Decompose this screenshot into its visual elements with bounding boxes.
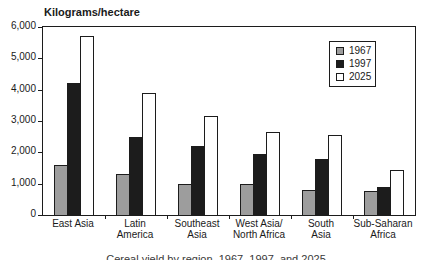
bar-1997-southeast-asia	[191, 146, 205, 215]
bar-2025-east-asia	[80, 36, 94, 215]
y-axis-tick	[38, 121, 42, 122]
legend-item-1967: 1967	[336, 46, 375, 56]
y-axis-label-2-000: 2,000	[0, 146, 36, 156]
bar-2025-southeast-asia	[204, 116, 218, 215]
y-axis-tick	[38, 184, 42, 185]
y-axis-label-1-000: 1,000	[0, 178, 36, 188]
bar-1997-east-asia	[67, 83, 81, 215]
bar-1967-southeast-asia	[178, 184, 192, 215]
y-axis-tick	[38, 90, 42, 91]
bar-1967-latin-america	[116, 174, 130, 215]
bar-1967-east-asia	[54, 165, 68, 215]
bar-2025-south-asia	[328, 135, 342, 215]
legend-item-1997: 1997	[336, 59, 375, 69]
legend-swatch-icon	[336, 73, 344, 81]
y-axis-tick	[38, 152, 42, 153]
x-axis-label-line: Sub-Saharan	[338, 218, 428, 229]
y-axis-label-5-000: 5,000	[0, 52, 36, 62]
bar-group-east-asia	[54, 36, 94, 215]
legend-swatch-icon	[336, 60, 344, 68]
y-axis-tick	[38, 27, 42, 28]
legend-item-2025: 2025	[336, 72, 375, 82]
bar-group-latin-america	[116, 93, 156, 215]
bar-group-west-asia-north-africa	[240, 132, 280, 215]
legend-swatch-icon	[336, 47, 344, 55]
bar-2025-west-asia-north-africa	[266, 132, 280, 215]
bar-1967-south-asia	[302, 190, 316, 215]
y-axis-tick	[38, 58, 42, 59]
bar-1967-west-asia-north-africa	[240, 184, 254, 215]
cereal-yield-bar-chart: Kilograms/hectare 196719972025 Cereal yi…	[0, 0, 432, 260]
y-axis-label-3-000: 3,000	[0, 115, 36, 125]
legend-label: 2025	[349, 72, 371, 82]
legend: 196719972025	[329, 41, 376, 87]
bar-2025-sub-saharan-africa	[390, 170, 404, 215]
bar-group-sub-saharan-africa	[364, 170, 404, 215]
bar-2025-latin-america	[142, 93, 156, 215]
bar-group-southeast-asia	[178, 116, 218, 215]
x-axis-label-sub-saharan-africa: Sub-SaharanAfrica	[338, 218, 428, 240]
bar-1997-south-asia	[315, 159, 329, 215]
bar-1997-west-asia-north-africa	[253, 154, 267, 215]
x-axis-label-line: Africa	[338, 229, 428, 240]
legend-label: 1967	[349, 46, 371, 56]
y-axis-unit-title: Kilograms/hectare	[44, 6, 140, 18]
y-axis-tick	[38, 215, 42, 216]
figure-caption-cut-off: Cereal yield by region, 1967, 1997, and …	[0, 253, 432, 260]
bar-1997-sub-saharan-africa	[377, 187, 391, 215]
y-axis-label-6-000: 6,000	[0, 21, 36, 31]
legend-label: 1997	[349, 59, 371, 69]
bar-1967-sub-saharan-africa	[364, 191, 378, 215]
y-axis-label-4-000: 4,000	[0, 84, 36, 94]
bar-1997-latin-america	[129, 137, 143, 215]
bar-group-south-asia	[302, 135, 342, 215]
